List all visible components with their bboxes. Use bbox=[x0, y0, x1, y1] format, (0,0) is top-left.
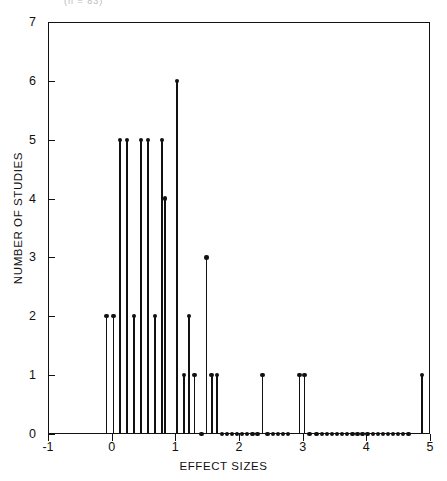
chart-figure: (n = 83) 01234567 -1012345 EFFECT SIZES … bbox=[0, 0, 447, 481]
y-axis-tick bbox=[48, 199, 55, 200]
header-fragment: (n = 83) bbox=[64, 0, 103, 6]
y-axis-title: NUMBER OF STUDIES bbox=[12, 118, 24, 318]
plot-frame bbox=[48, 22, 430, 434]
y-axis-tick-label: 0 bbox=[10, 428, 36, 441]
x-axis-tick-label: 2 bbox=[224, 441, 254, 454]
y-axis-tick bbox=[48, 316, 55, 317]
x-axis-tick-label: 3 bbox=[288, 441, 318, 454]
y-axis-tick-label: 6 bbox=[10, 75, 36, 88]
y-axis-tick bbox=[48, 140, 55, 141]
y-axis-tick bbox=[48, 22, 55, 23]
x-axis-tick-label: 5 bbox=[415, 441, 445, 454]
x-axis-title: EFFECT SIZES bbox=[0, 460, 447, 472]
y-axis-tick bbox=[48, 375, 55, 376]
x-axis-tick-label: -1 bbox=[33, 441, 63, 454]
y-axis-tick bbox=[48, 257, 55, 258]
y-axis-tick bbox=[48, 81, 55, 82]
x-axis-tick-label: 4 bbox=[351, 441, 381, 454]
y-axis-tick-label: 7 bbox=[10, 16, 36, 29]
y-axis-tick bbox=[48, 434, 55, 435]
x-axis-tick-label: 0 bbox=[97, 441, 127, 454]
y-axis-tick-label: 1 bbox=[10, 369, 36, 382]
x-axis-tick-label: 1 bbox=[160, 441, 190, 454]
